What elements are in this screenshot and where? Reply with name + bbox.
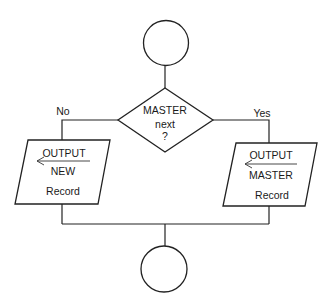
output-new-node: OUTPUT NEW Record (15, 140, 110, 204)
no-branch-label: No (56, 105, 70, 117)
decision-text-line-1: MASTER (143, 104, 187, 116)
start-connector-circle (144, 21, 189, 66)
output-new-text-line-2: NEW (51, 165, 76, 177)
edge-decision-no-branch (62, 120, 118, 140)
output-master-text-line-2: MASTER (249, 169, 293, 181)
flowchart: MASTER next ? No Yes OUTPUT NEW Record O… (0, 0, 330, 306)
edge-decision-yes-branch (213, 120, 269, 143)
output-new-text-line-1: OUTPUT (42, 147, 86, 159)
decision-text-line-3: ? (162, 130, 168, 142)
output-master-text-line-1: OUTPUT (249, 149, 293, 161)
output-new-text-line-3: Record (46, 185, 80, 197)
output-master-text-line-3: Record (255, 189, 289, 201)
decision-text-line-2: next (155, 118, 175, 130)
end-connector-circle (141, 246, 187, 292)
decision-node: MASTER next ? (118, 88, 213, 152)
output-master-node: OUTPUT MASTER Record (223, 143, 317, 206)
yes-branch-label: Yes (253, 107, 270, 119)
